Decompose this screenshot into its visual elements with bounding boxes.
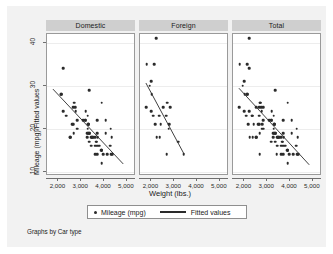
plot-area: Mileage (mpg)/Fitted values 10203040 Dom…	[0, 0, 333, 254]
x-tick-mark	[57, 178, 58, 181]
legend-item-fitted: Fitted values	[160, 209, 231, 216]
x-tick-mark	[219, 178, 220, 181]
x-axis-title: Weight (lbs.)	[110, 189, 230, 198]
x-tick-mark	[266, 178, 267, 181]
y-tick-label: 30	[29, 74, 36, 94]
x-tick-mark	[312, 178, 313, 181]
fitted-line	[233, 34, 321, 175]
y-tick-label: 10	[29, 160, 36, 180]
x-tick-mark	[289, 178, 290, 181]
x-tick-mark	[103, 178, 104, 181]
panel-plot-domestic	[46, 33, 135, 175]
panel-plot-foreign	[139, 33, 228, 175]
fitted-line	[140, 34, 228, 175]
footer-note: Graphs by Car type	[27, 228, 82, 235]
x-tick-label: 5,000	[206, 182, 232, 189]
x-tick-label: 5,000	[113, 182, 139, 189]
panel-header-foreign: Foreign	[139, 20, 228, 31]
legend-label-fitted: Fitted values	[191, 209, 231, 216]
scatter-marker-icon	[94, 211, 97, 214]
x-tick-mark	[173, 178, 174, 181]
x-axis-line	[46, 178, 135, 179]
y-tick-label: 40	[29, 31, 36, 51]
x-tick-mark	[196, 178, 197, 181]
x-tick-mark	[126, 178, 127, 181]
x-axis-line	[139, 178, 228, 179]
legend: Mileage (mpg) Fitted values	[87, 205, 247, 219]
x-tick-mark	[243, 178, 244, 181]
legend-item-mileage: Mileage (mpg)	[94, 209, 146, 216]
fitted-line	[47, 34, 135, 175]
panel-header-domestic: Domestic	[46, 20, 135, 31]
fit-line-icon	[160, 211, 186, 212]
panel-header-total: Total	[232, 20, 321, 31]
graph-screenshot: Mileage (mpg)/Fitted values 10203040 Dom…	[0, 0, 333, 254]
x-tick-label: 5,000	[299, 182, 325, 189]
y-tick-label: 20	[29, 117, 36, 137]
panel-plot-total	[232, 33, 321, 175]
x-axis-line	[232, 178, 321, 179]
legend-label-mileage: Mileage (mpg)	[101, 209, 146, 216]
x-tick-mark	[150, 178, 151, 181]
x-tick-mark	[80, 178, 81, 181]
